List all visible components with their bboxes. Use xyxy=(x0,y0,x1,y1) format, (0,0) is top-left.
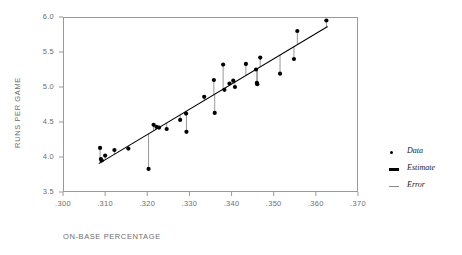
x-tick-label: .370 xyxy=(338,199,378,208)
y-axis-title: RUNS PER GAME xyxy=(13,58,22,168)
y-tick-label: 6.0 xyxy=(24,12,54,21)
x-tick-label: .320 xyxy=(127,199,167,208)
x-tick-label: .310 xyxy=(85,199,125,208)
y-tick-label: 5.0 xyxy=(24,82,54,91)
x-tick-label: .340 xyxy=(212,199,252,208)
axis-ticks xyxy=(59,17,358,196)
x-axis-title: ON-BASE PERCENTAGE xyxy=(63,232,161,241)
regression-line xyxy=(99,26,328,163)
chart-canvas xyxy=(0,0,462,255)
x-tick-label: .330 xyxy=(169,199,209,208)
legend-label-data: Data xyxy=(407,146,423,155)
legend-label-error: Error xyxy=(407,180,425,189)
y-tick-label: 4.5 xyxy=(24,117,54,126)
x-tick-label: .360 xyxy=(296,199,336,208)
x-tick-label: .300 xyxy=(43,199,83,208)
x-tick-label: .350 xyxy=(254,199,294,208)
y-tick-label: 4.0 xyxy=(24,152,54,161)
y-tick-label: 5.5 xyxy=(24,47,54,56)
legend-thick-line-icon xyxy=(389,168,399,171)
legend-label-estimate: Estimate xyxy=(407,163,435,172)
legend-thin-line-icon xyxy=(389,186,399,187)
chart-container: 3.54.04.55.05.56.0 .300.310.320.330.340.… xyxy=(0,0,462,255)
y-tick-label: 3.5 xyxy=(24,187,54,196)
